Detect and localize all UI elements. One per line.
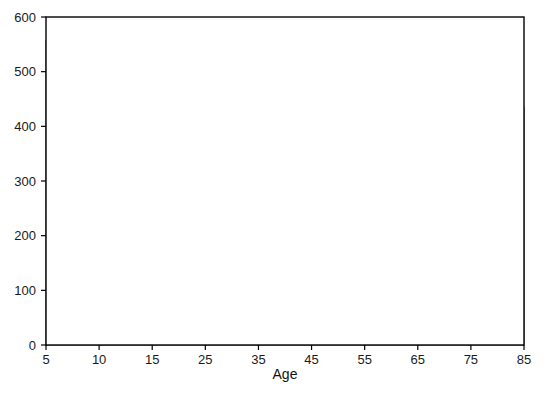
y-tick-label: 300 <box>14 174 36 189</box>
x-tick-label: 85 <box>517 352 531 367</box>
x-tick-label: 65 <box>411 352 425 367</box>
plot-frame <box>46 17 524 345</box>
chart-canvas: 5101525354555657585 0100200300400500600 … <box>0 0 544 393</box>
x-tick-label: 45 <box>304 352 318 367</box>
x-tick-label: 5 <box>42 352 49 367</box>
x-axis-ticks: 5101525354555657585 <box>42 345 531 367</box>
y-tick-label: 100 <box>14 283 36 298</box>
y-axis-ticks: 0100200300400500600 <box>14 10 46 353</box>
x-tick-label: 25 <box>198 352 212 367</box>
y-tick-label: 600 <box>14 10 36 25</box>
y-tick-label: 200 <box>14 228 36 243</box>
x-tick-label: 75 <box>464 352 478 367</box>
x-tick-label: 15 <box>145 352 159 367</box>
y-tick-label: 500 <box>14 64 36 79</box>
x-axis-title: Age <box>273 366 298 382</box>
x-tick-label: 55 <box>357 352 371 367</box>
stacked-area-chart: 5101525354555657585 0100200300400500600 … <box>0 0 544 393</box>
x-tick-label: 35 <box>251 352 265 367</box>
y-tick-label: 400 <box>14 119 36 134</box>
x-tick-label: 10 <box>92 352 106 367</box>
y-tick-label: 0 <box>29 338 36 353</box>
